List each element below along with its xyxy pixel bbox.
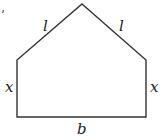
left-roof-label: l bbox=[43, 17, 48, 35]
right-side-label: x bbox=[150, 78, 159, 96]
pentagon-outline bbox=[17, 4, 146, 117]
base-label: b bbox=[77, 120, 87, 138]
stray-mark: ’ bbox=[1, 9, 5, 23]
left-side-label: x bbox=[5, 78, 14, 96]
house-pentagon-diagram: ’ l l x x b bbox=[0, 0, 167, 140]
right-roof-label: l bbox=[119, 17, 124, 35]
